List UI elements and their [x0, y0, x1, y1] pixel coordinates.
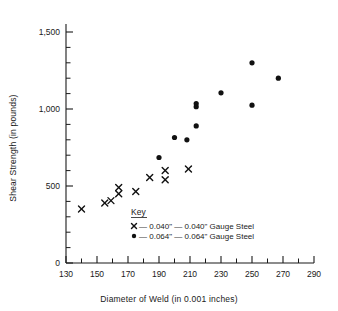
data-point-x [162, 168, 168, 174]
data-point-x [108, 198, 114, 204]
data-point-dot [218, 90, 223, 95]
y-axis-title: Shear Strength (in pounds) [8, 94, 18, 201]
data-point-dot [194, 104, 199, 109]
legend-x-icon [132, 224, 137, 229]
data-point-dot [184, 137, 189, 142]
x-tick-label: 150 [90, 269, 104, 279]
y-axis-ticks [66, 32, 73, 263]
legend-dot-icon [132, 234, 136, 238]
data-point-dot [172, 135, 177, 140]
data-point-x [116, 185, 122, 191]
x-axis-tick-labels: 130150170190210230250270290 [59, 269, 321, 279]
chart-svg: 1,5001,0005000 1301501701902102302502702… [0, 0, 338, 311]
data-point-dot [156, 155, 161, 160]
x-axis-title: Diameter of Weld (in 0.001 inches) [100, 294, 238, 304]
x-tick-label: 230 [214, 269, 228, 279]
x-tick-label: 190 [152, 269, 166, 279]
scatter-chart: 1,5001,0005000 1301501701902102302502702… [0, 0, 338, 311]
legend-entry-064: — 0.064" — 0.064" Gauge Steel [132, 232, 255, 241]
data-point-dot [249, 60, 254, 65]
data-point-dot [249, 103, 254, 108]
y-tick-label: 0 [55, 258, 60, 268]
x-tick-label: 290 [307, 269, 321, 279]
x-tick-label: 130 [59, 269, 73, 279]
data-point-x [185, 166, 191, 172]
y-tick-label: 1,500 [39, 27, 61, 37]
data-point-x [102, 200, 108, 206]
legend-title: Key [131, 207, 146, 217]
y-tick-label: 1,000 [39, 104, 61, 114]
data-point-x [133, 188, 139, 194]
legend-label-040: — 0.040" — 0.040" Gauge Steel [139, 222, 254, 231]
data-point-x [116, 191, 122, 197]
y-axis-tick-labels: 1,5001,0005000 [39, 27, 61, 268]
legend-entry-040: — 0.040" — 0.040" Gauge Steel [132, 222, 255, 231]
series-040-gauge-markers [79, 166, 192, 212]
legend-label-064: — 0.064" — 0.064" Gauge Steel [139, 232, 254, 241]
x-tick-label: 270 [276, 269, 290, 279]
data-point-x [79, 206, 85, 212]
data-point-x [162, 177, 168, 183]
x-tick-label: 250 [245, 269, 259, 279]
x-tick-label: 170 [121, 269, 135, 279]
series-064-gauge-markers [156, 60, 281, 160]
x-axis-ticks [66, 256, 314, 263]
x-tick-label: 210 [183, 269, 197, 279]
data-point-dot [276, 76, 281, 81]
legend: Key — 0.040" — 0.040" Gauge Steel — 0.06… [131, 207, 254, 241]
data-point-x [147, 175, 153, 181]
y-tick-label: 500 [46, 181, 60, 191]
data-point-dot [194, 123, 199, 128]
